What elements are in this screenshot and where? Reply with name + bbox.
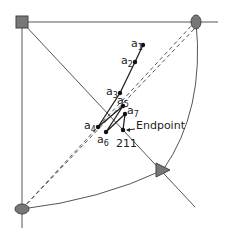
dashed-line-1 (22, 24, 193, 209)
endpoint-arrowhead-icon (126, 128, 130, 132)
label-a7: a7 (127, 104, 139, 119)
triangle-marker (156, 163, 170, 177)
bottom-left-ellipse-marker (15, 204, 29, 214)
endpoint-label: Endpoint (136, 119, 186, 132)
step-count-label: 211 (116, 137, 137, 150)
main-diagonal-line (22, 22, 195, 207)
square-marker (16, 16, 28, 28)
diagram-canvas: a1 a2 a3 a5 a7 a4 a6 Endpoint 211 (0, 0, 240, 238)
right-arc (163, 22, 198, 170)
point-a4 (96, 125, 100, 129)
point-a2 (133, 60, 137, 64)
point-a6 (104, 130, 108, 134)
label-a2: a2 (121, 54, 133, 69)
endpoint-marker (121, 128, 125, 132)
label-a6: a6 (97, 133, 109, 148)
label-a4: a4 (84, 119, 96, 134)
top-right-ellipse-marker (191, 15, 201, 29)
bottom-arc (22, 170, 163, 209)
label-a1: a1 (131, 37, 143, 52)
